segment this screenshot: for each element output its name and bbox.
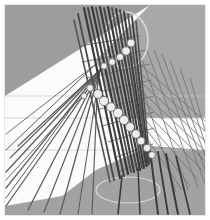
wireframe-render-svg [0, 0, 210, 220]
scene-contents [5, 5, 206, 215]
render-viewport[interactable]: 3D wireframe structure render Grayscale … [0, 0, 210, 220]
render-canvas[interactable] [0, 0, 210, 220]
